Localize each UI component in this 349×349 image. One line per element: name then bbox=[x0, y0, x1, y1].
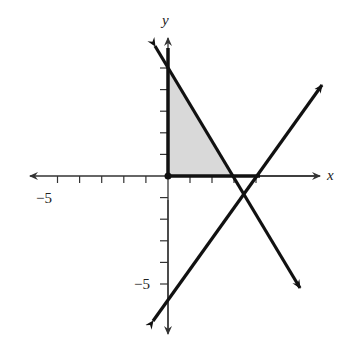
y-axis-label: y bbox=[160, 12, 169, 28]
x-axis-label: x bbox=[326, 167, 334, 183]
origin-point bbox=[165, 173, 172, 180]
coordinate-plane: y x −5 −5 bbox=[0, 0, 349, 349]
y-tick-label-neg5: −5 bbox=[134, 276, 150, 292]
graph-canvas: y x −5 −5 bbox=[0, 0, 349, 349]
x-tick-label-neg5: −5 bbox=[36, 190, 52, 206]
